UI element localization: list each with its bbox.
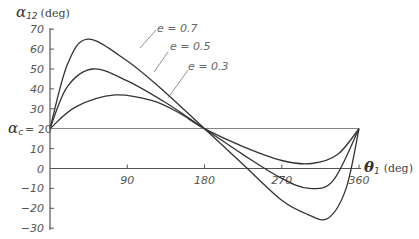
legend-e-03: e = 0.3 (188, 60, 228, 73)
y-tick-label: 30 (30, 103, 44, 116)
y-tick-label: 50 (30, 63, 44, 76)
x-tick-label: 180 (194, 174, 215, 187)
legend-leader-07 (140, 30, 156, 48)
y-tick-label: −30 (21, 222, 44, 235)
legend-e-05: e = 0.5 (170, 40, 210, 53)
legend-leader-05 (154, 52, 168, 72)
x-axis-label: θ1(deg) (364, 158, 413, 176)
y-axis-label: α12(deg) (16, 3, 70, 21)
curve-03 (50, 95, 359, 164)
y-tick-label: 0 (37, 163, 44, 176)
y-tick-label: 40 (30, 83, 44, 96)
legend-leader-03 (168, 70, 188, 98)
x-tick-label: 270 (271, 174, 292, 187)
y-tick-label: 10 (30, 143, 44, 156)
x-tick-label: 90 (120, 174, 134, 187)
y-tick-label: 70 (30, 23, 44, 36)
y-tick-label: 60 (30, 43, 44, 56)
chart: 7060504030100−10−20−30 90180270360 α12(d… (0, 0, 419, 239)
legend-e-07: e = 0.7 (157, 22, 197, 35)
x-ticks: 90180270360 (120, 165, 369, 187)
alpha-c-label: αc= 20 (8, 119, 52, 137)
y-tick-label: −10 (21, 182, 44, 195)
y-tick-label: −20 (21, 202, 44, 215)
